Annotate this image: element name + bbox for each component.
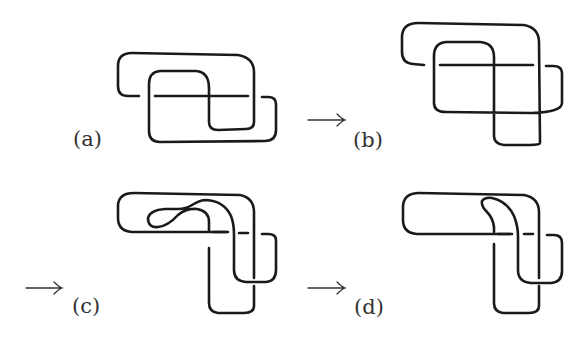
knot-diagram-b bbox=[402, 23, 562, 145]
panel-label-a: (a) bbox=[73, 127, 102, 151]
knot-diagram-figure: (a) (b) (c) bbox=[0, 0, 583, 342]
strand-main-loop bbox=[118, 193, 276, 313]
panel-d: (d) bbox=[308, 193, 562, 319]
arrow-to-d bbox=[308, 282, 345, 294]
panel-c: (c) bbox=[26, 193, 276, 318]
arrow-to-c bbox=[26, 282, 62, 294]
strand-over-horizontal bbox=[213, 232, 248, 233]
panel-label-c: (c) bbox=[72, 294, 100, 318]
strand-outer-top bbox=[402, 23, 562, 145]
arrow-right-icon bbox=[308, 282, 345, 294]
arrow-right-icon bbox=[26, 282, 62, 294]
strand-outer-top bbox=[118, 53, 276, 142]
knot-diagram-c bbox=[118, 193, 276, 313]
knot-diagram-a bbox=[118, 53, 276, 142]
arrow-right-icon bbox=[308, 114, 345, 126]
panel-b: (b) bbox=[308, 23, 562, 152]
panel-label-d: (d) bbox=[354, 295, 384, 319]
panel-label-b: (b) bbox=[353, 128, 383, 152]
knot-diagram-d bbox=[403, 193, 562, 313]
strand-main-loop bbox=[403, 193, 562, 313]
panel-a: (a) bbox=[73, 53, 276, 151]
arrow-to-b bbox=[308, 114, 345, 126]
